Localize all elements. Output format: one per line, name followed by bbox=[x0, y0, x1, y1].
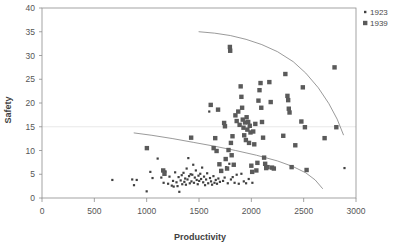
data-point bbox=[236, 174, 238, 176]
data-point bbox=[238, 84, 242, 88]
legend-marker-1923 bbox=[364, 11, 366, 13]
data-point bbox=[222, 180, 224, 182]
data-point bbox=[261, 135, 265, 139]
y-tick-label: 35 bbox=[26, 27, 36, 37]
data-point bbox=[209, 177, 211, 179]
data-point bbox=[200, 178, 202, 180]
x-tick-label: 3000 bbox=[347, 206, 366, 216]
y-tick-label: 5 bbox=[30, 169, 35, 179]
y-tick-label: 40 bbox=[26, 3, 36, 13]
data-point bbox=[180, 179, 182, 181]
data-point bbox=[229, 141, 233, 145]
data-point bbox=[184, 177, 186, 179]
x-axis-title: Productivity bbox=[174, 232, 226, 242]
data-point bbox=[245, 182, 247, 184]
data-point bbox=[190, 180, 192, 182]
data-point bbox=[255, 161, 259, 165]
data-point bbox=[198, 180, 200, 182]
data-point bbox=[343, 167, 345, 169]
data-point bbox=[227, 182, 229, 184]
data-point bbox=[228, 49, 232, 53]
data-point bbox=[244, 115, 248, 119]
data-point bbox=[201, 167, 203, 169]
data-point bbox=[242, 133, 246, 137]
data-point bbox=[217, 162, 221, 166]
data-point bbox=[136, 179, 138, 181]
data-point bbox=[223, 157, 227, 161]
data-point bbox=[256, 98, 260, 102]
data-point bbox=[182, 172, 184, 174]
legend-marker-1939 bbox=[363, 21, 367, 25]
data-point bbox=[233, 113, 237, 117]
data-point bbox=[181, 183, 183, 185]
data-point bbox=[175, 181, 177, 183]
data-point bbox=[163, 182, 165, 184]
data-point bbox=[228, 45, 232, 49]
data-point bbox=[254, 168, 258, 172]
data-point bbox=[178, 191, 180, 193]
data-point bbox=[248, 178, 250, 180]
data-point bbox=[224, 176, 226, 178]
x-tick-label: 2500 bbox=[294, 206, 313, 216]
data-point bbox=[236, 109, 240, 113]
x-tick-label: 0 bbox=[40, 206, 45, 216]
data-point bbox=[186, 178, 188, 180]
data-point bbox=[133, 184, 135, 186]
y-tick-label: 25 bbox=[26, 74, 36, 84]
data-point bbox=[219, 169, 223, 173]
data-point bbox=[252, 142, 256, 146]
data-point bbox=[197, 183, 199, 185]
data-point bbox=[229, 153, 233, 157]
data-point bbox=[194, 176, 196, 178]
data-point bbox=[287, 110, 291, 114]
data-point bbox=[111, 179, 113, 181]
data-point bbox=[230, 134, 234, 138]
data-point bbox=[301, 85, 305, 89]
data-point bbox=[246, 120, 250, 124]
data-point bbox=[196, 179, 198, 181]
y-tick-label: 15 bbox=[26, 122, 36, 132]
y-tick-label: 10 bbox=[26, 146, 36, 156]
data-point bbox=[238, 183, 240, 185]
data-point bbox=[240, 106, 244, 110]
data-point bbox=[232, 163, 236, 167]
data-point bbox=[185, 184, 187, 186]
data-point bbox=[286, 98, 290, 102]
data-point bbox=[243, 180, 245, 182]
data-point bbox=[189, 135, 193, 139]
data-point bbox=[281, 134, 285, 138]
data-point bbox=[240, 173, 242, 175]
data-point bbox=[204, 184, 206, 186]
data-point bbox=[214, 149, 218, 153]
data-point bbox=[145, 146, 149, 150]
data-point bbox=[206, 172, 208, 174]
data-point bbox=[248, 124, 252, 128]
chart-canvas: 0510152025303540 05001000150020002500300… bbox=[0, 0, 393, 245]
x-tick-label: 1500 bbox=[190, 206, 209, 216]
data-point bbox=[193, 182, 195, 184]
data-point bbox=[212, 175, 214, 177]
data-point bbox=[251, 182, 253, 184]
data-point bbox=[251, 129, 255, 133]
data-point bbox=[223, 124, 227, 128]
data-point bbox=[332, 65, 336, 69]
data-point bbox=[188, 175, 190, 177]
data-point bbox=[304, 168, 308, 172]
data-point bbox=[215, 179, 217, 181]
data-point bbox=[213, 182, 215, 184]
data-point bbox=[186, 167, 188, 169]
data-point bbox=[216, 107, 220, 111]
data-point bbox=[216, 183, 218, 185]
data-point bbox=[173, 186, 175, 188]
data-point bbox=[157, 157, 159, 159]
scatter-chart: 0510152025303540 05001000150020002500300… bbox=[0, 0, 393, 245]
data-point bbox=[217, 177, 219, 179]
data-point bbox=[285, 94, 289, 98]
data-point bbox=[192, 164, 194, 166]
data-point bbox=[289, 165, 293, 169]
data-point bbox=[176, 185, 178, 187]
data-point bbox=[211, 184, 213, 186]
data-point bbox=[177, 176, 179, 178]
data-point bbox=[247, 141, 251, 145]
data-point bbox=[187, 157, 189, 159]
